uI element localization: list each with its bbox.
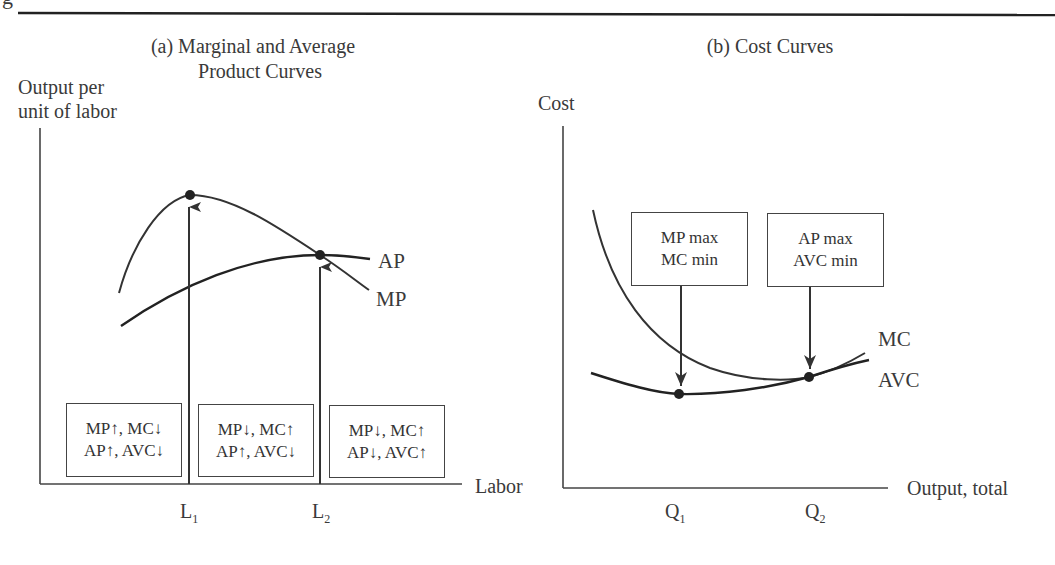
avc-min-point xyxy=(804,372,814,382)
avc-curve xyxy=(591,360,869,394)
tick-q2: Q2 xyxy=(805,500,825,530)
tick-l1: L1 xyxy=(180,500,198,530)
region-box-3-line1: MP↓, MC↑ xyxy=(349,420,426,442)
panel-a-x-axis-label: Labor xyxy=(475,475,523,497)
avc-curve-label: AVC xyxy=(878,369,920,391)
panel-b-axes xyxy=(563,126,888,488)
header-rule xyxy=(18,13,1055,15)
panel-a-y-axis-label-line1: Output per xyxy=(18,76,104,98)
region-box-2-line1: MP↓, MC↑ xyxy=(218,419,295,441)
mp-max-mc-min-box: MP max MC min xyxy=(631,212,748,286)
panel-a-y-axis-label-line2: unit of labor xyxy=(18,100,117,122)
mc-curve-label: MC xyxy=(878,328,911,350)
ap-max-point xyxy=(315,250,325,260)
tick-q1: Q1 xyxy=(665,500,685,530)
figure: g xyxy=(0,0,1055,565)
tick-l1-main: L xyxy=(180,500,192,522)
region-box-1: MP↑, MC↓ AP↑, AVC↓ xyxy=(66,403,182,477)
tick-l2-sub: 2 xyxy=(324,512,330,526)
ap-curve xyxy=(121,255,370,326)
mp-max-point xyxy=(185,190,195,200)
region-box-3-line2: AP↓, AVC↑ xyxy=(347,442,427,464)
panel-b-y-axis-label: Cost xyxy=(538,92,575,114)
tick-l2-main: L xyxy=(312,500,324,522)
tick-q2-sub: 2 xyxy=(819,512,825,526)
tick-l1-sub: 1 xyxy=(192,512,198,526)
region-box-3: MP↓, MC↑ AP↓, AVC↑ xyxy=(329,405,445,478)
tick-q1-sub: 1 xyxy=(679,512,685,526)
region-box-1-line2: AP↑, AVC↓ xyxy=(84,440,164,462)
panel-a-title-line1: (a) Marginal and Average xyxy=(128,35,378,57)
mp-curve-label: MP xyxy=(376,288,406,310)
ap-max-avc-min-box: AP max AVC min xyxy=(767,213,884,287)
mc-min-point xyxy=(674,389,684,399)
mp-max-mc-min-line1: MP max xyxy=(661,227,718,249)
ap-max-avc-min-line2: AVC min xyxy=(793,250,857,272)
tick-q2-main: Q xyxy=(805,500,819,522)
panel-b-x-axis-label: Output, total xyxy=(907,477,1008,499)
ap-curve-label: AP xyxy=(378,250,405,272)
tick-q1-main: Q xyxy=(665,500,679,522)
region-box-2-line2: AP↑, AVC↓ xyxy=(216,441,296,463)
tick-l2: L2 xyxy=(312,500,330,530)
mp-max-mc-min-line2: MC min xyxy=(661,249,718,271)
panel-b-title: (b) Cost Curves xyxy=(660,35,880,57)
diagram-svg xyxy=(0,0,1055,565)
region-box-2: MP↓, MC↑ AP↑, AVC↓ xyxy=(198,404,314,477)
mp-curve xyxy=(119,195,369,293)
ap-max-avc-min-line1: AP max xyxy=(798,228,853,250)
region-box-1-line1: MP↑, MC↓ xyxy=(86,418,163,440)
panel-a-title-line2: Product Curves xyxy=(160,60,360,82)
